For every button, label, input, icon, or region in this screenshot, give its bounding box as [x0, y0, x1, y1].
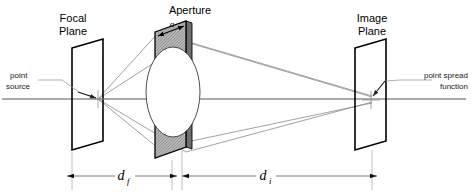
optical-diagram: d f d i Focal Plane Aperture a Image Pla…: [0, 0, 472, 196]
psf-label-line2: function: [440, 82, 468, 91]
psf-arrow: [373, 81, 385, 96]
df-subscript: f: [127, 176, 131, 186]
image-plane-label-line2: Plane: [358, 25, 386, 37]
focal-plane-label-line1: Focal: [60, 12, 87, 24]
diagram-canvas: d f d i Focal Plane Aperture a Image Pla…: [0, 0, 472, 196]
dimension-di: d i: [182, 168, 377, 186]
aperture-label: Aperture: [169, 4, 211, 16]
point-source-label-line2: source: [6, 82, 31, 91]
aperture-diameter-label: a: [170, 19, 175, 29]
di-symbol: d: [260, 168, 268, 183]
focal-plane-label-line2: Plane: [59, 25, 87, 37]
psf-label-line1: point spread: [424, 71, 468, 80]
df-symbol: d: [118, 168, 126, 183]
di-subscript: i: [269, 176, 272, 186]
point-source-arrow: [78, 92, 96, 98]
point-source-label-line1: point: [10, 71, 28, 80]
leader-lines: [38, 80, 432, 92]
aperture-plate: [146, 21, 200, 158]
aperture-opening: [146, 47, 200, 137]
image-plane: [355, 39, 386, 150]
dimension-df: d f: [67, 168, 177, 186]
image-plane-label-line1: Image: [357, 12, 388, 24]
